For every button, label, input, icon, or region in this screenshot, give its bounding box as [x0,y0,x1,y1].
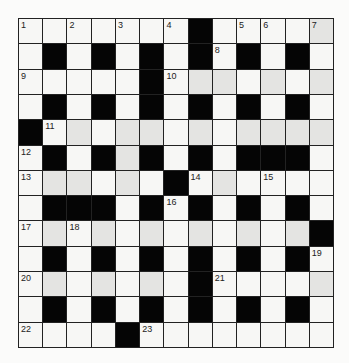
grid-cell[interactable] [67,44,90,68]
grid-cell[interactable] [237,272,260,296]
grid-cell[interactable]: 17 [19,221,42,245]
grid-cell[interactable] [286,19,309,43]
grid-cell[interactable] [67,272,90,296]
grid-cell[interactable] [213,70,236,94]
grid-cell[interactable]: 20 [19,272,42,296]
grid-cell[interactable] [19,95,42,119]
grid-cell[interactable] [140,221,163,245]
grid-cell[interactable] [261,247,284,271]
grid-cell[interactable] [261,323,284,347]
grid-cell[interactable] [92,171,115,195]
grid-cell[interactable] [43,171,66,195]
grid-cell[interactable] [261,120,284,144]
grid-cell[interactable] [213,120,236,144]
grid-cell[interactable]: 23 [140,323,163,347]
grid-cell[interactable] [19,247,42,271]
grid-cell[interactable] [286,171,309,195]
grid-cell[interactable] [286,221,309,245]
grid-cell[interactable] [261,297,284,321]
grid-cell[interactable]: 10 [164,70,187,94]
grid-cell[interactable] [43,323,66,347]
grid-cell[interactable] [261,44,284,68]
grid-cell[interactable] [140,171,163,195]
grid-cell[interactable] [67,323,90,347]
grid-cell[interactable] [261,221,284,245]
grid-cell[interactable] [286,272,309,296]
grid-cell[interactable]: 9 [19,70,42,94]
grid-cell[interactable] [19,297,42,321]
grid-cell[interactable] [286,323,309,347]
grid-cell[interactable] [189,323,212,347]
grid-cell[interactable] [164,44,187,68]
grid-cell[interactable] [67,120,90,144]
grid-cell[interactable] [213,297,236,321]
grid-cell[interactable] [310,44,333,68]
grid-cell[interactable] [310,171,333,195]
grid-cell[interactable] [213,19,236,43]
grid-cell[interactable]: 2 [67,19,90,43]
grid-cell[interactable] [116,146,139,170]
grid-cell[interactable] [261,70,284,94]
grid-cell[interactable] [310,297,333,321]
grid-cell[interactable]: 7 [310,19,333,43]
grid-cell[interactable] [213,171,236,195]
grid-cell[interactable]: 4 [164,19,187,43]
grid-cell[interactable] [237,120,260,144]
grid-cell[interactable] [116,70,139,94]
grid-cell[interactable] [116,44,139,68]
grid-cell[interactable]: 8 [213,44,236,68]
grid-cell[interactable] [261,272,284,296]
grid-cell[interactable]: 3 [116,19,139,43]
grid-cell[interactable] [164,272,187,296]
grid-cell[interactable] [164,146,187,170]
grid-cell[interactable] [310,70,333,94]
grid-cell[interactable] [286,120,309,144]
grid-cell[interactable] [67,95,90,119]
grid-cell[interactable] [92,221,115,245]
grid-cell[interactable] [19,44,42,68]
grid-cell[interactable] [237,70,260,94]
grid-cell[interactable] [164,247,187,271]
grid-cell[interactable] [116,247,139,271]
grid-cell[interactable] [140,272,163,296]
grid-cell[interactable] [213,247,236,271]
grid-cell[interactable] [140,120,163,144]
grid-cell[interactable] [116,297,139,321]
grid-cell[interactable]: 6 [261,19,284,43]
grid-cell[interactable] [67,247,90,271]
grid-cell[interactable] [116,120,139,144]
grid-cell[interactable] [286,70,309,94]
grid-cell[interactable] [213,95,236,119]
grid-cell[interactable] [213,146,236,170]
grid-cell[interactable] [189,221,212,245]
grid-cell[interactable] [189,70,212,94]
grid-cell[interactable] [310,146,333,170]
grid-cell[interactable]: 19 [310,247,333,271]
grid-cell[interactable]: 5 [237,19,260,43]
grid-cell[interactable] [116,221,139,245]
grid-cell[interactable]: 18 [67,221,90,245]
grid-cell[interactable]: 16 [164,196,187,220]
grid-cell[interactable] [213,221,236,245]
grid-cell[interactable]: 21 [213,272,236,296]
grid-cell[interactable]: 22 [19,323,42,347]
grid-cell[interactable] [237,221,260,245]
grid-cell[interactable] [92,272,115,296]
grid-cell[interactable] [237,171,260,195]
grid-cell[interactable] [140,19,163,43]
grid-cell[interactable]: 14 [189,171,212,195]
grid-cell[interactable] [67,171,90,195]
grid-cell[interactable] [310,272,333,296]
grid-cell[interactable]: 12 [19,146,42,170]
grid-cell[interactable] [164,323,187,347]
grid-cell[interactable] [261,196,284,220]
grid-cell[interactable] [92,323,115,347]
grid-cell[interactable] [43,19,66,43]
grid-cell[interactable] [310,196,333,220]
grid-cell[interactable] [164,120,187,144]
grid-cell[interactable] [164,221,187,245]
grid-cell[interactable] [164,95,187,119]
grid-cell[interactable] [310,323,333,347]
grid-cell[interactable] [92,70,115,94]
grid-cell[interactable] [213,323,236,347]
